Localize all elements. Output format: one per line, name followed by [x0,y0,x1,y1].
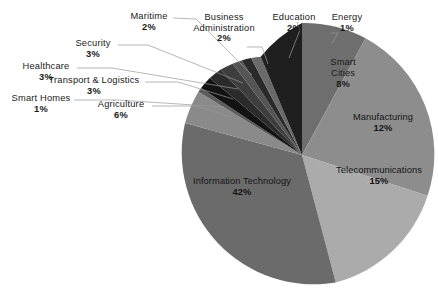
slice-value-smart-cities: 8% [317,79,369,90]
slice-label-agriculture-text: Agriculture [88,99,154,110]
slice-label-telecommunications: Telecommunications 15% [320,165,438,187]
slice-label-business-administration: Business Administration 2% [185,12,263,44]
pie-slices [182,23,435,284]
slice-value-transport-logistics: 3% [40,86,148,97]
slice-value-smart-homes: 1% [6,104,76,115]
slice-label-smart-cities: Smart Cities 8% [317,57,369,91]
slice-label-energy-text: Energy [323,12,371,23]
slice-value-business-administration: 2% [185,33,263,44]
slice-label-education: Education 2% [263,12,325,33]
slice-label-smart-cities-line2: Cities [317,68,369,79]
slice-label-manufacturing-text: Manufacturing [331,112,435,123]
slice-value-maritime: 2% [122,22,176,33]
slice-label-agriculture: Agriculture 6% [88,99,154,120]
slice-value-information-technology: 42% [176,187,308,198]
slice-label-healthcare: Healthcare 3% [14,61,78,82]
slice-label-maritime: Maritime 2% [122,11,176,32]
slice-label-healthcare-text: Healthcare [14,61,78,72]
slice-label-education-text: Education [263,12,325,23]
slice-value-telecommunications: 15% [320,176,438,187]
pie-chart-figure: Smart Cities 8% Manufacturing 12% Teleco… [0,0,438,300]
slice-label-energy: Energy 1% [323,12,371,33]
slice-label-security: Security 3% [66,38,120,59]
slice-value-security: 3% [66,49,120,60]
slice-label-information-technology-text: Information Technology [176,176,308,187]
slice-value-agriculture: 6% [88,110,154,121]
slice-label-information-technology: Information Technology 42% [176,176,308,198]
slice-value-healthcare: 3% [14,72,78,83]
slice-label-maritime-text: Maritime [122,11,176,22]
slice-label-business-administration-line2: Administration [185,23,263,34]
slice-label-security-text: Security [66,38,120,49]
slice-value-education: 2% [263,23,325,34]
slice-label-business-administration-line1: Business [185,12,263,23]
slice-label-smart-cities-line1: Smart [317,57,369,68]
slice-value-manufacturing: 12% [331,123,435,134]
slice-value-energy: 1% [323,23,371,34]
slice-label-manufacturing: Manufacturing 12% [331,112,435,134]
slice-label-telecommunications-text: Telecommunications [320,165,438,176]
